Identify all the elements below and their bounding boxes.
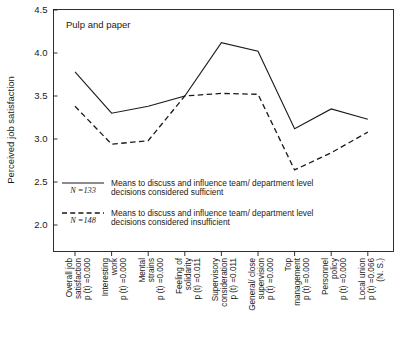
line-chart-svg: 2.02.53.03.54.04.5 Perceived job satisfa… — [0, 0, 414, 338]
x-category-label-5-line2: consideration — [220, 258, 229, 307]
x-category-label-4-line1: Feeling of — [175, 257, 184, 294]
legend-n-label-2: N =148 — [69, 216, 97, 225]
x-category-label-2-line2: work — [110, 257, 119, 276]
x-category-label-8-line1: Personnel — [321, 258, 330, 295]
x-category-label-3-line1: Mental — [138, 258, 147, 283]
y-tick-label: 2.5 — [34, 176, 47, 187]
legend-entry-line2-2: decisions considered insufficient — [111, 217, 231, 227]
x-category-label-9-line2: p (t) =0.066 — [367, 258, 376, 301]
x-category-label-9-line3: (N. S.) — [376, 258, 385, 282]
x-category-label-3-line3: p (t) =0.000 — [156, 258, 165, 301]
legend-n-label-1: N =133 — [69, 186, 96, 195]
x-category-label-2-line1: Interesting — [101, 258, 110, 297]
x-category-label-7-line3: p (t) =0.000 — [302, 258, 311, 301]
y-tick-label: 3.5 — [34, 90, 47, 101]
x-category-label-5-line3: p (t) =0.011 — [229, 258, 238, 300]
x-category-label-6-line3: p (t) =0.000 — [266, 258, 275, 301]
data-series-group — [75, 43, 368, 170]
x-category-label-7-line1: Top — [284, 258, 293, 272]
x-category-label-9-line1: Local union — [358, 258, 367, 300]
x-category-label-4-line3: p (t) =0.011 — [193, 258, 202, 300]
x-category-label-6-line1: General/ close — [248, 258, 257, 311]
x-category-label-2-line3: p (t) =0.000 — [119, 258, 128, 301]
y-axis-ticks: 2.02.53.03.54.04.5 — [34, 4, 57, 230]
x-category-label-5-line1: Supervisory — [211, 257, 220, 301]
x-category-label-1-line3: p (t) =0.000 — [83, 258, 92, 301]
legend-entry-line2-1: decisions considered sufficient — [111, 187, 224, 197]
x-category-label-8-line3: p (t) =0.000 — [339, 258, 348, 301]
x-category-label-3-line2: strains — [147, 258, 156, 282]
x-category-label-6-line2: supervision — [257, 258, 266, 300]
x-axis-category-labels: Overall jobsatisfactionp (t) =0.000Inter… — [65, 257, 385, 311]
x-category-label-8-line2: policy — [330, 257, 339, 279]
series-line-2 — [75, 93, 368, 170]
x-category-label-4-line2: solidarity — [184, 257, 193, 290]
y-tick-label: 2.0 — [34, 219, 47, 230]
x-category-label-1-line1: Overall job — [65, 258, 74, 298]
y-tick-label: 4.5 — [34, 4, 47, 15]
x-category-label-7-line2: management — [293, 257, 302, 306]
series-line-1 — [75, 43, 368, 129]
y-tick-label: 4.0 — [34, 47, 47, 58]
y-tick-label: 3.0 — [34, 133, 47, 144]
panel-title: Pulp and paper — [66, 19, 130, 30]
x-axis-ticks — [75, 252, 368, 257]
y-axis-title: Perceived job satisfaction — [5, 76, 16, 184]
chart-figure: 2.02.53.03.54.04.5 Perceived job satisfa… — [0, 0, 414, 338]
x-category-label-1-line2: satisfaction — [74, 258, 83, 299]
chart-legend: N =133Means to discuss and influence tea… — [62, 178, 314, 227]
